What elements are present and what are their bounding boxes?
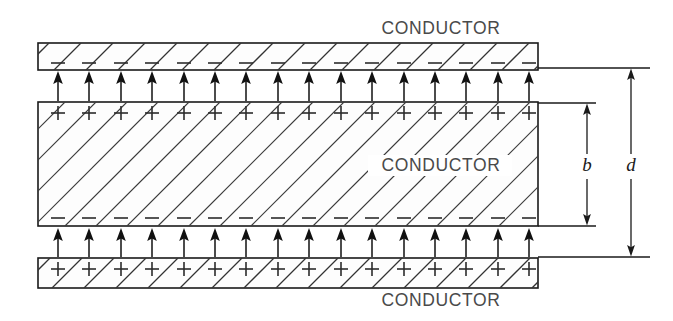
dim-b-label: b [582,154,592,175]
capacitor-figure-svg: CONDUCTOR [0,0,673,321]
top-plate-body [38,43,538,70]
upper-gap-field-arrows [53,71,534,101]
middle-conductor-label: CONDUCTOR [382,155,501,175]
dimension-d: d [619,69,643,257]
middle-conductor-slab: CONDUCTOR [0,102,623,226]
capacitor-diagram: CONDUCTOR [0,0,673,321]
bottom-plate-body [38,258,538,288]
top-conductor-plate [22,43,561,70]
bottom-conductor-plate [20,258,562,288]
lower-gap-field-arrows [53,228,534,257]
dim-d-label: d [626,154,636,175]
dimension-b: b [575,104,599,226]
top-conductor-label: CONDUCTOR [382,18,501,38]
bottom-conductor-label: CONDUCTOR [382,290,501,310]
